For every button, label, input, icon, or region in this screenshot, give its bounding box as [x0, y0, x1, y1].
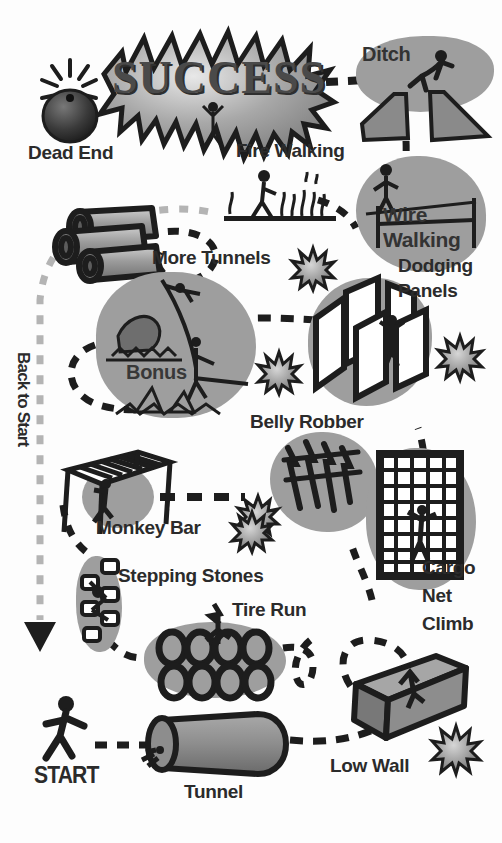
label-start: START: [34, 762, 98, 787]
label-dodging-1: Dodging: [398, 256, 473, 276]
label-wire-walking-1: Wire: [383, 204, 427, 226]
label-stepping-stones: Stepping Stones: [118, 566, 263, 586]
running-person-icon: [36, 694, 92, 768]
label-monkey-bar: Monkey Bar: [96, 518, 201, 538]
star-burst-marker-3: [438, 336, 482, 380]
ditch-ramps-icon: [358, 86, 498, 150]
star-burst-marker-1: [292, 248, 334, 290]
obstacle-course-map: SUCCESS Dead End Ditch: [0, 0, 502, 843]
label-bonus: Bonus: [126, 362, 187, 383]
fire-flames-icon: [218, 166, 346, 228]
label-wire-walking-2: Walking: [383, 229, 461, 251]
label-back-to-start: Back to Start: [14, 352, 32, 446]
success-title: SUCCESS: [112, 54, 326, 102]
water-rope-gator-icon: [96, 272, 266, 422]
label-low-wall: Low Wall: [330, 756, 409, 776]
label-tire-run: Tire Run: [232, 600, 306, 620]
label-cargo-3: Climb: [422, 614, 473, 634]
star-burst-marker-5: [232, 512, 272, 552]
star-burst-marker-6: [432, 726, 480, 774]
label-belly-robber: Belly Robber: [250, 412, 364, 432]
star-burst-marker-2: [258, 352, 300, 394]
label-ditch: Ditch: [362, 44, 411, 65]
stepping-stones-icon: [76, 556, 124, 654]
success-celebrating-figure-icon: [198, 98, 228, 144]
label-tunnel: Tunnel: [184, 782, 243, 802]
label-more-tunnels: More Tunnels: [152, 248, 271, 268]
label-dead-end: Dead End: [28, 143, 113, 163]
label-cargo-2: Net: [422, 586, 452, 606]
bomb-icon: [30, 52, 110, 144]
label-dodging-2: Panels: [398, 281, 457, 301]
label-cargo-1: Cargo: [422, 558, 475, 578]
label-fire-walking: Fire Walking: [236, 141, 345, 161]
